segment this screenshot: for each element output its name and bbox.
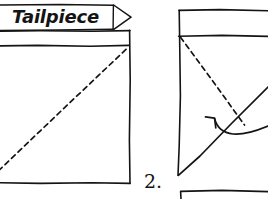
figure-3-partial — [181, 190, 268, 199]
figure-2 — [178, 10, 268, 176]
fig2-band-crease — [179, 35, 268, 36]
fig1-bottom-edge — [0, 183, 130, 184]
fig1-band-crease — [0, 45, 129, 46]
fig2-left-edge — [178, 10, 180, 175]
step-number-2: 2. — [144, 170, 162, 192]
tailpiece-label: Tailpiece — [12, 6, 99, 28]
diagram-svg — [0, 0, 268, 199]
fig2-curved-arrow-head — [206, 117, 216, 128]
diagram-canvas: Tailpiece 2. — [0, 0, 268, 199]
fig1-right-edge — [129, 30, 130, 183]
figure-1 — [0, 30, 130, 183]
fig1-dashed-diagonal — [0, 48, 128, 178]
fig2-top-edge — [179, 10, 268, 11]
fig2-dashed-fold — [181, 37, 245, 125]
fig3-top-edge — [181, 190, 268, 199]
fig1-top-edge — [0, 31, 130, 32]
